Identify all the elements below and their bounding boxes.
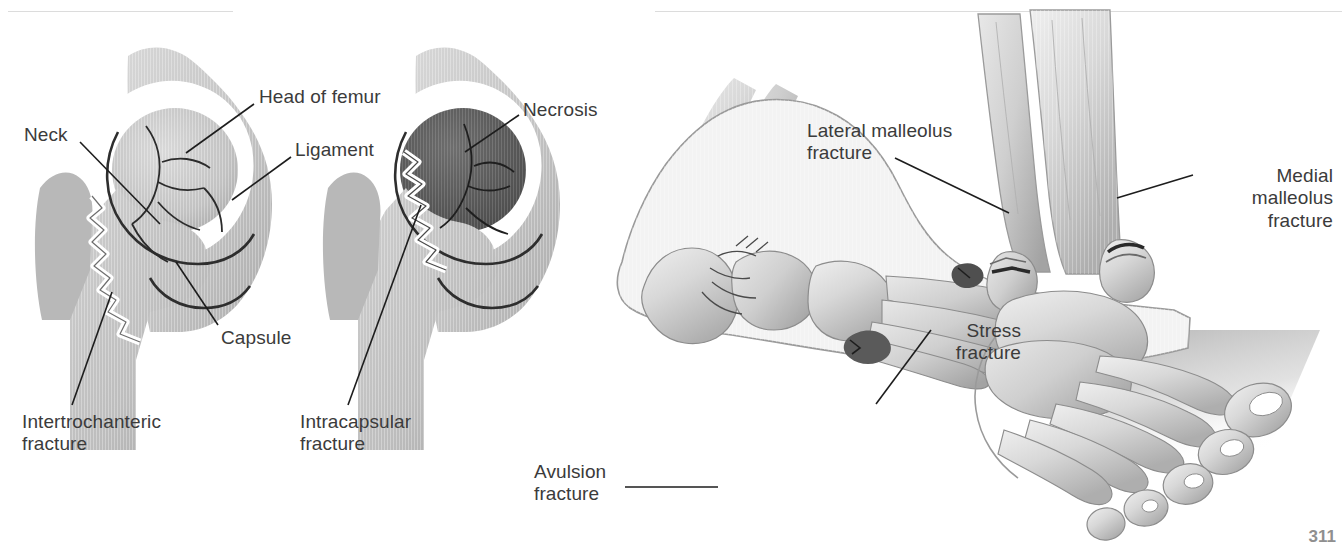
label-intracapsular-fracture: Intracapsular fracture bbox=[300, 411, 411, 456]
illustration-page: Neck Head of femur Ligament Capsule Inte… bbox=[0, 0, 1342, 543]
leader-ligament bbox=[232, 157, 291, 200]
label-ligament: Ligament bbox=[295, 139, 374, 161]
label-medial-malleolus-fracture: Medial malleolus fracture bbox=[1198, 165, 1333, 232]
leader-head-of-femur bbox=[186, 104, 254, 153]
leader-medial-malleolus bbox=[1117, 175, 1193, 198]
leader-stress bbox=[876, 330, 931, 404]
label-neck: Neck bbox=[24, 124, 68, 146]
leader-lines bbox=[0, 0, 1342, 543]
leader-capsule bbox=[176, 262, 218, 325]
leader-neck bbox=[80, 142, 160, 224]
label-intertrochanteric-fracture: Intertrochanteric fracture bbox=[22, 411, 161, 456]
label-stress-fracture: Stress fracture bbox=[935, 320, 1021, 365]
label-necrosis: Necrosis bbox=[523, 99, 598, 121]
label-lateral-malleolus-fracture: Lateral malleolus fracture bbox=[807, 120, 952, 165]
label-capsule: Capsule bbox=[221, 327, 291, 349]
leader-lateral-malleolus bbox=[895, 158, 1009, 213]
leader-necrosis bbox=[465, 115, 519, 152]
page-number: 311 bbox=[1309, 527, 1336, 543]
leader-intertrochanteric bbox=[72, 292, 112, 405]
label-head-of-femur: Head of femur bbox=[259, 86, 381, 108]
leader-intracapsular bbox=[348, 205, 421, 405]
label-avulsion-fracture: Avulsion fracture bbox=[534, 461, 606, 506]
